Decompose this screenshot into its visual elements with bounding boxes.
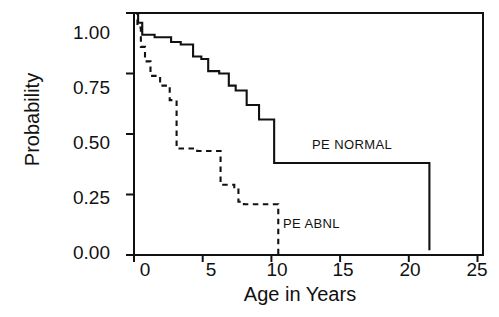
- x-tick-label-5: 5: [181, 259, 241, 281]
- kaplan-meier-survival-chart: 1.00 0.75 0.50 0.25 0.00 0 5 10 15 20 25…: [0, 0, 499, 317]
- y-axis-ticks: [126, 13, 134, 255]
- x-tick-label-0: 0: [115, 259, 175, 281]
- y-tick-label-0-50: 0.50: [40, 132, 110, 154]
- y-tick-label-0-00: 0.00: [40, 242, 110, 264]
- series-annotation-pe-normal: PE NORMAL: [312, 137, 392, 152]
- y-tick-label-0-75: 0.75: [40, 77, 110, 99]
- x-tick-label-20: 20: [380, 259, 440, 281]
- x-tick-label-25: 25: [447, 259, 499, 281]
- x-tick-label-15: 15: [313, 259, 373, 281]
- y-tick-label-0-25: 0.25: [40, 187, 110, 209]
- series-line-pe-normal: [134, 13, 429, 250]
- x-tick-label-10: 10: [247, 259, 307, 281]
- series-line-pe-abnl: [134, 13, 278, 255]
- x-axis-title: Age in Years: [160, 283, 440, 306]
- y-tick-label-1-00: 1.00: [40, 22, 110, 44]
- series-annotation-pe-abnl: PE ABNL: [283, 216, 340, 231]
- y-axis-title: Probability: [21, 40, 44, 200]
